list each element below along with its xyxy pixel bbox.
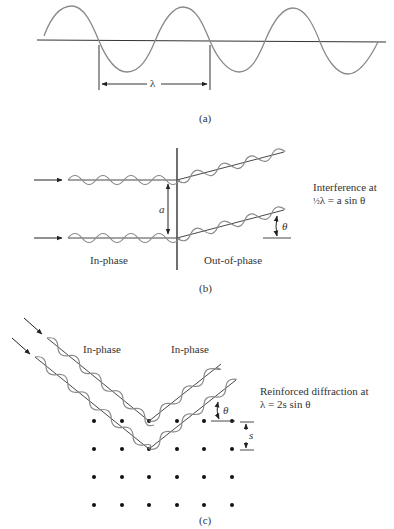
- lattice-spacing-label: s: [249, 429, 253, 441]
- interference-note-line1: Interference at: [313, 181, 377, 193]
- diffraction-note-line1: Reinforced diffraction at: [260, 385, 369, 397]
- half-fraction: ½: [313, 196, 320, 206]
- panel-b-in-phase-label: In-phase: [90, 254, 128, 266]
- diagram-canvas: [0, 0, 394, 529]
- panel-c-rays: [12, 318, 254, 452]
- wavelength-label: λ: [150, 77, 155, 89]
- panel-c-incident-in-phase-label: In-phase: [83, 343, 121, 355]
- diffraction-note-line2: λ = 2s sin θ: [260, 398, 310, 410]
- panel-a-caption: (a): [199, 112, 211, 124]
- panel-c-angle-label: θ: [223, 404, 228, 416]
- slit-separation-label: a: [159, 203, 165, 215]
- panel-b-caption: (b): [199, 282, 212, 294]
- panel-b-angle-label: θ: [282, 220, 287, 232]
- panel-c-caption: (c): [199, 514, 211, 526]
- interference-note-line2: ½λ = a sin θ: [313, 194, 365, 207]
- panel-c-reflected-in-phase-label: In-phase: [171, 343, 209, 355]
- panel-b-out-of-phase-label: Out-of-phase: [204, 254, 262, 266]
- panel-a-wave: [37, 6, 386, 74]
- interference-formula: λ = a sin θ: [320, 194, 366, 206]
